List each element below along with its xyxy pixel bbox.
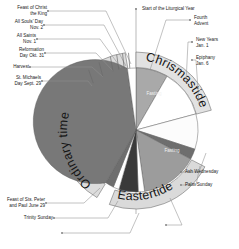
wedge-label-fasting-advent: Fasting — [146, 91, 162, 96]
label-fourth-advent: Fourth Advent — [194, 15, 236, 26]
label-st-michaels-day: St. Michaels Day Sept. 29 — [2, 75, 41, 86]
label-palm-sunday: Palm Sunday — [185, 182, 235, 188]
label-trinity-sunday: Trinity Sunday — [2, 215, 53, 221]
label-ash-wednesday: Ash Wednesday — [185, 169, 239, 175]
label-new-years: New Years Jan. 1 — [196, 37, 238, 48]
label-start-of-liturgical-year: Start of the Liturgical Year — [142, 6, 222, 12]
label-epiphany: Epiphany Jan. 6 — [196, 55, 238, 66]
label-all-saints: All Saints Nov. 1 — [2, 33, 36, 44]
label-reformation-day: Reformation Day Okt. 31 — [2, 47, 44, 58]
label-harvest: Harvest — [2, 64, 29, 70]
liturgical-year-diagram: Chrismastide Eastertide Ordinary time Fa… — [0, 0, 239, 249]
label-sts-peter-and-paul: Feast of Sts. Peter and Paul June 29 — [2, 197, 45, 208]
wedge-label-fasting-lent: Fasting — [164, 148, 180, 153]
label-all-souls-day: All Souls' Day Nov. 2 — [2, 19, 43, 30]
label-feast-of-christ-the-king: Feast of Christ the King — [2, 5, 47, 16]
